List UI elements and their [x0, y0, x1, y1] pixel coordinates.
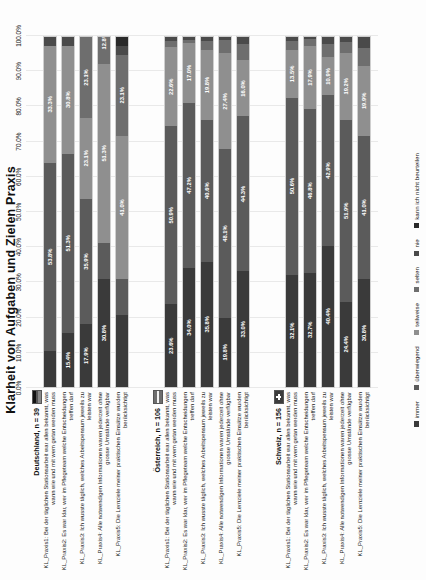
legend-swatch-icon	[414, 287, 420, 293]
bar-segment-selten[interactable]	[201, 41, 213, 51]
bar-segment-überwiegend[interactable]: 42.9%	[322, 95, 334, 245]
bar-segment-selten[interactable]	[358, 48, 370, 66]
stacked-bar[interactable]: 34.0%47.2%17.0%	[182, 36, 196, 388]
bar-segment-teilweise[interactable]: 41.0%	[116, 136, 128, 280]
bar-segment-teilweise[interactable]: 13.5%	[286, 50, 298, 97]
stacked-bar[interactable]: 24.4%51.9%19.2%	[339, 36, 353, 388]
bar-segment-immer[interactable]: 23.6%	[165, 304, 177, 387]
x-tick-label: 10.0%	[15, 344, 22, 362]
legend-item-immer[interactable]: immer	[413, 401, 420, 427]
chart-legend: immerüberwiegendteilweiseseltenniekann i…	[413, 0, 420, 580]
legend-label: überwiegend	[413, 346, 420, 381]
legend-item-kann-ich-nicht-beurteilen[interactable]: kann ich nicht beurteilen	[413, 153, 420, 228]
bar-segment-immer[interactable]: 34.0%	[183, 268, 195, 387]
stacked-bar[interactable]: 23.6%50.9%22.6%	[164, 36, 178, 388]
bar-segment-überwiegend[interactable]: 50.9%	[165, 126, 177, 304]
stacked-bar[interactable]: 17.9%35.9%23.1%23.1%	[79, 36, 93, 388]
bar-segment-immer[interactable]	[44, 351, 56, 387]
bar-segment-kann-ich-nicht-beurteilen[interactable]	[116, 37, 128, 46]
bar-segment-immer[interactable]	[116, 315, 128, 387]
bar-segment-selten[interactable]	[286, 41, 298, 50]
bar-segment-selten[interactable]	[219, 40, 231, 53]
bar-segment-nie[interactable]	[237, 37, 249, 44]
x-tick-label: 100.0%	[15, 25, 22, 47]
stacked-bar[interactable]: 33.0%44.3%16.0%	[236, 36, 250, 388]
bar-segment-teilweise[interactable]: 23.1%	[80, 118, 92, 199]
bar-segment-nie[interactable]	[116, 46, 128, 55]
bar-segment-immer[interactable]: 30.8%	[98, 279, 110, 387]
bar-segment-überwiegend[interactable]: 47.2%	[183, 103, 195, 268]
bar-segment-immer[interactable]: 17.9%	[80, 324, 92, 387]
bar-segment-immer[interactable]: 33.0%	[237, 272, 249, 388]
bar-segment-immer[interactable]: 32.7%	[304, 273, 316, 387]
bar-segment-nie[interactable]	[201, 37, 213, 41]
stacked-bar[interactable]: 35.8%40.6%19.8%	[200, 36, 214, 388]
bar-segment-nie[interactable]	[183, 37, 195, 40]
bar-segment-selten[interactable]	[183, 40, 195, 44]
legend-item-überwiegend[interactable]: überwiegend	[413, 346, 420, 390]
bar-segment-selten[interactable]: 12.8%	[98, 36, 110, 64]
bar-segment-teilweise[interactable]: 33.3%	[44, 46, 56, 163]
bar-segment-überwiegend[interactable]: 35.9%	[80, 199, 92, 325]
bar-segment-selten[interactable]	[304, 39, 316, 46]
stacked-bar[interactable]: 53.8%33.3%	[43, 36, 57, 388]
bar-segment-teilweise[interactable]: 27.4%	[219, 53, 231, 149]
bar-segment-nie[interactable]	[340, 37, 352, 42]
bar-segment-nie[interactable]	[358, 37, 370, 48]
bar-segment-überwiegend[interactable]: 44.3%	[237, 116, 249, 271]
bar-segment-immer[interactable]: 24.4%	[340, 302, 352, 387]
bar-segment-nie[interactable]	[322, 37, 334, 44]
bar-segment-überwiegend[interactable]: 50.6%	[286, 98, 298, 275]
bar-segment-überwiegend[interactable]: 51.3%	[62, 154, 74, 334]
bar-segment-überwiegend[interactable]: 48.1%	[219, 149, 231, 317]
bar-segment-teilweise[interactable]: 51.3%	[98, 64, 110, 244]
bar-segment-teilweise[interactable]: 19.9%	[358, 66, 370, 136]
bar-segment-teilweise[interactable]: 10.9%	[322, 57, 334, 95]
bar-segment-überwiegend[interactable]: 53.8%	[44, 163, 56, 351]
bar-segment-teilweise[interactable]: 17.9%	[304, 46, 316, 109]
bar-segment-immer[interactable]: 40.4%	[322, 246, 334, 387]
bar-segment-teilweise[interactable]: 19.2%	[340, 53, 352, 120]
bar-segment-selten[interactable]: 23.1%	[116, 55, 128, 136]
bar-segment-nie[interactable]	[165, 37, 177, 41]
bar-segment-überwiegend[interactable]: 51.9%	[340, 120, 352, 302]
bar-segment-immer[interactable]: 30.8%	[358, 279, 370, 387]
bar-segment-nie[interactable]	[62, 37, 74, 46]
bar-segment-nie[interactable]	[219, 37, 231, 40]
stacked-bar[interactable]: 41.0%23.1%	[115, 36, 129, 388]
stacked-bar[interactable]: 19.8%48.1%27.4%	[218, 36, 232, 388]
bar-segment-teilweise[interactable]: 19.8%	[201, 50, 213, 119]
bar-segment-immer[interactable]: 19.8%	[219, 318, 231, 387]
bar-segment-überwiegend[interactable]	[116, 279, 128, 315]
bar-segment-teilweise[interactable]: 17.0%	[183, 43, 195, 103]
bar-row: KL_Praxis3: Ich wusste täglich, welches …	[321, 36, 335, 388]
bar-segment-nie[interactable]	[44, 37, 56, 46]
bar-segment-überwiegend[interactable]: 41.0%	[358, 136, 370, 280]
stacked-bar[interactable]: 30.8%51.3%12.8%	[97, 36, 111, 388]
bar-segment-selten[interactable]	[340, 42, 352, 53]
bar-segment-überwiegend[interactable]: 46.8%	[304, 109, 316, 273]
bar-segment-nie[interactable]	[286, 37, 298, 41]
stacked-bar[interactable]: 30.8%41.0%19.9%	[357, 36, 371, 388]
bar-segment-selten[interactable]: 23.1%	[80, 37, 92, 118]
bar-segment-nie[interactable]	[304, 37, 316, 39]
bar-segment-teilweise[interactable]: 22.6%	[165, 47, 177, 126]
stacked-bar[interactable]: 40.4%42.9%10.9%	[321, 36, 335, 388]
bar-segment-überwiegend[interactable]	[98, 243, 110, 279]
bar-segment-selten[interactable]	[322, 44, 334, 57]
legend-item-teilweise[interactable]: teilweise	[413, 303, 420, 335]
legend-item-selten[interactable]: selten	[413, 267, 420, 292]
bar-segment-immer[interactable]: 35.8%	[201, 262, 213, 387]
bar-segment-immer[interactable]: 32.1%	[286, 275, 298, 387]
legend-swatch-icon	[414, 251, 420, 257]
bar-segment-immer[interactable]: 15.4%	[62, 333, 74, 387]
bar-segment-teilweise[interactable]: 16.0%	[237, 60, 249, 116]
bar-segment-teilweise[interactable]: 30.8%	[62, 46, 74, 154]
stacked-bar[interactable]: 32.7%46.8%17.9%	[303, 36, 317, 388]
stacked-bar[interactable]: 15.4%51.3%30.8%	[61, 36, 75, 388]
bar-segment-selten[interactable]	[237, 44, 249, 60]
bar-segment-überwiegend[interactable]: 40.6%	[201, 120, 213, 262]
legend-item-nie[interactable]: nie	[413, 239, 420, 256]
stacked-bar[interactable]: 32.1%50.6%13.5%	[285, 36, 299, 388]
bar-segment-selten[interactable]	[165, 41, 177, 48]
